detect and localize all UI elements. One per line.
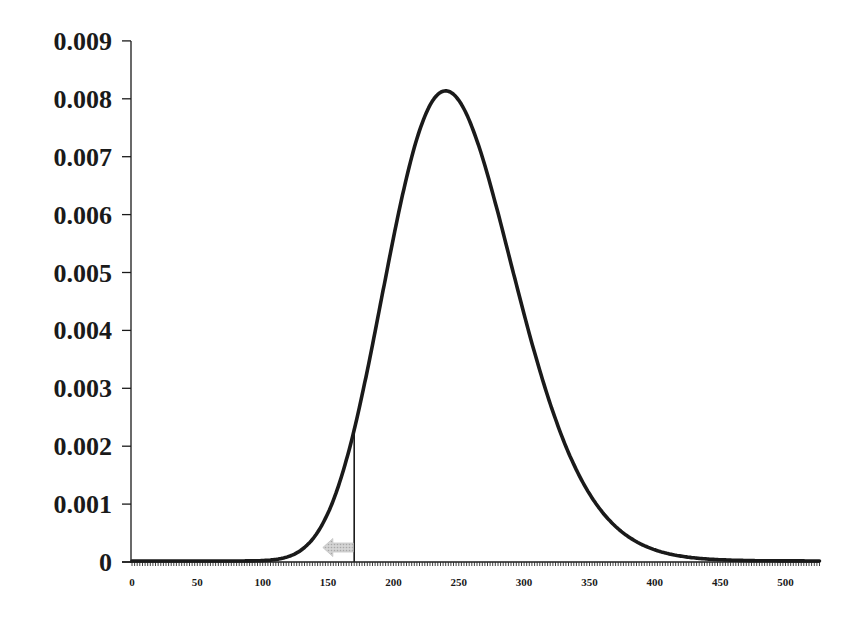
y-axis — [122, 41, 131, 563]
y-tick-label: 0.002 — [54, 432, 113, 461]
y-tick-label: 0 — [99, 548, 112, 577]
y-tick-labels: 00.0010.0020.0030.0040.0050.0060.0070.00… — [54, 27, 113, 577]
y-tick-label: 0.001 — [54, 490, 113, 519]
y-tick-label: 0.008 — [54, 85, 113, 114]
x-tick-label: 0 — [129, 576, 135, 588]
y-tick-label: 0.009 — [54, 27, 113, 56]
density-chart: 00.0010.0020.0030.0040.0050.0060.0070.00… — [0, 0, 850, 623]
x-tick-label: 200 — [385, 576, 402, 588]
y-tick-label: 0.005 — [54, 259, 113, 288]
y-tick-label: 0.007 — [54, 143, 113, 172]
x-tick-label: 150 — [320, 576, 337, 588]
x-tick-label: 100 — [254, 576, 271, 588]
x-tick-label: 300 — [516, 576, 533, 588]
x-tick-label: 250 — [451, 576, 468, 588]
left-arrow-icon — [323, 539, 353, 557]
x-tick-labels: 050100150200250300350400450500 — [129, 576, 794, 588]
y-tick-label: 0.003 — [54, 374, 113, 403]
x-tick-label: 400 — [647, 576, 664, 588]
x-tick-label: 500 — [777, 576, 794, 588]
x-tick-label: 450 — [712, 576, 729, 588]
x-tick-label: 350 — [581, 576, 598, 588]
y-tick-label: 0.004 — [54, 316, 113, 345]
y-tick-label: 0.006 — [54, 201, 113, 230]
x-tick-label: 50 — [192, 576, 204, 588]
density-curve — [132, 91, 820, 561]
